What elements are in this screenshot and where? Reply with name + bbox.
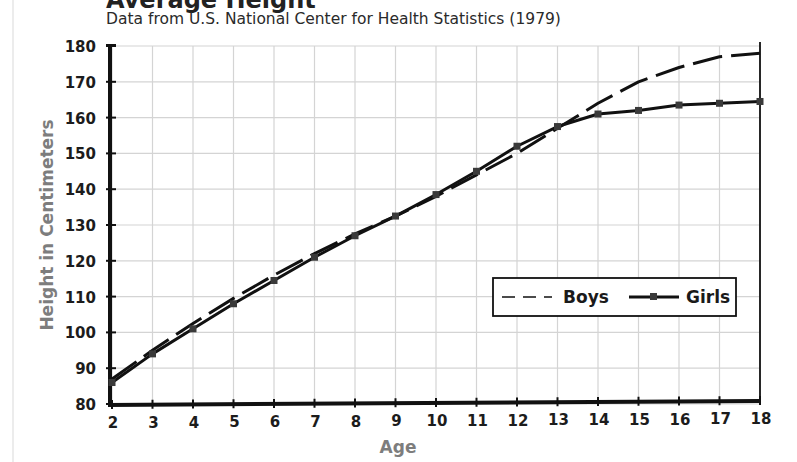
x-tick-label: 11	[467, 412, 488, 430]
girls-legend-marker	[650, 293, 657, 300]
y-axis-tick-labels: 8090100110120130140150160170180	[65, 38, 96, 414]
x-tick-label: 9	[391, 412, 401, 430]
x-tick-label: 4	[189, 414, 199, 432]
x-tick-label: 7	[310, 413, 320, 431]
x-tick-label: 3	[148, 414, 158, 432]
girls-data-marker	[676, 102, 683, 109]
x-tick-label: 18	[751, 410, 772, 428]
girls-data-marker	[311, 254, 318, 261]
girls-data-marker	[149, 350, 156, 357]
y-tick-label: 160	[65, 110, 96, 128]
x-tick-label: 16	[670, 411, 691, 429]
y-tick-label: 150	[65, 145, 96, 163]
girls-data-marker	[473, 168, 480, 175]
x-tick-label: 14	[589, 411, 610, 429]
girls-data-marker	[109, 379, 116, 386]
gridlines	[112, 46, 760, 404]
girls-data-marker	[554, 123, 561, 130]
legend-girls-label: Girls	[686, 287, 730, 307]
x-axis-tick-labels: 23456789101112131415161718	[108, 410, 772, 432]
y-tick-label: 110	[65, 289, 96, 307]
x-tick-label: 6	[270, 413, 280, 431]
x-tick-label: 8	[351, 413, 361, 431]
y-tick-label: 180	[65, 38, 96, 56]
x-axis-title: Age	[380, 437, 417, 457]
legend-boys-label: Boys	[563, 287, 609, 307]
x-tick-label: 17	[710, 410, 731, 428]
girls-data-marker	[514, 143, 521, 150]
x-tick-label: 15	[629, 411, 650, 429]
x-tick-label: 2	[108, 414, 118, 432]
y-tick-label: 90	[75, 360, 96, 378]
girls-data-marker	[716, 100, 723, 107]
girls-data-marker	[635, 107, 642, 114]
x-tick-label: 13	[548, 411, 569, 429]
y-tick-label: 170	[65, 74, 96, 92]
girls-data-marker	[595, 111, 602, 118]
girls-data-marker	[757, 98, 764, 105]
girls-data-marker	[190, 325, 197, 332]
y-tick-label: 80	[75, 396, 96, 414]
y-tick-label: 140	[65, 181, 96, 199]
girls-data-marker	[230, 300, 237, 307]
x-tick-label: 10	[427, 412, 448, 430]
y-tick-label: 120	[65, 253, 96, 271]
x-tick-label: 12	[508, 412, 529, 430]
girls-data-marker	[433, 191, 440, 198]
girls-data-marker	[352, 232, 359, 239]
y-axis-title: Height in Centimeters	[37, 119, 57, 330]
girls-data-marker	[392, 213, 399, 220]
legend: Boys Girls	[493, 278, 736, 316]
line-chart: 8090100110120130140150160170180 23456789…	[0, 0, 797, 462]
y-tick-label: 100	[65, 324, 96, 342]
y-tick-label: 130	[65, 217, 96, 235]
girls-data-marker	[271, 277, 278, 284]
x-tick-label: 5	[229, 413, 239, 431]
